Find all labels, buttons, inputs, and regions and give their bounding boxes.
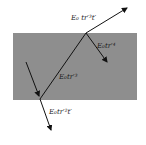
label-internal: E₀tr′³ [58,73,78,81]
label-exit-bottom: E₀tr′²t′ [48,108,72,116]
label-reflect-inside: E₀tr′⁴ [96,42,116,50]
label-exit-top: E₀ tr′³t′ [70,14,97,22]
slab-reflection-diagram: E₀ tr′³t′ E₀tr′⁴ E₀tr′³ E₀tr′²t′ [0,0,146,145]
dielectric-slab [13,33,137,100]
